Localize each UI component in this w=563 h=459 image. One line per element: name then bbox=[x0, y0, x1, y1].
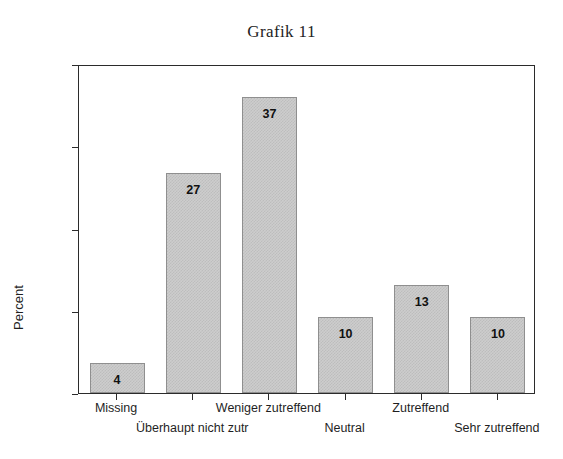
x-tick-label: Sehr zutreffend bbox=[454, 421, 539, 435]
x-tick-label: Neutral bbox=[324, 421, 364, 435]
x-tick-label: Überhaupt nicht zutr bbox=[136, 421, 249, 435]
x-tick-label: Missing bbox=[95, 401, 137, 415]
x-tick-mark bbox=[268, 394, 269, 400]
x-axis: MissingÜberhaupt nicht zutrWeniger zutre… bbox=[0, 0, 563, 459]
y-axis-title: Percent bbox=[11, 248, 26, 368]
x-tick-label: Zutreffend bbox=[392, 401, 449, 415]
x-tick-mark bbox=[192, 394, 193, 400]
x-tick-mark bbox=[497, 394, 498, 400]
x-tick-mark bbox=[421, 394, 422, 400]
x-tick-mark bbox=[116, 394, 117, 400]
x-tick-mark bbox=[345, 394, 346, 400]
bar-chart-figure: Grafik 11 010203040 42737101310 MissingÜ… bbox=[0, 0, 563, 459]
x-tick-label: Weniger zutreffend bbox=[216, 401, 321, 415]
